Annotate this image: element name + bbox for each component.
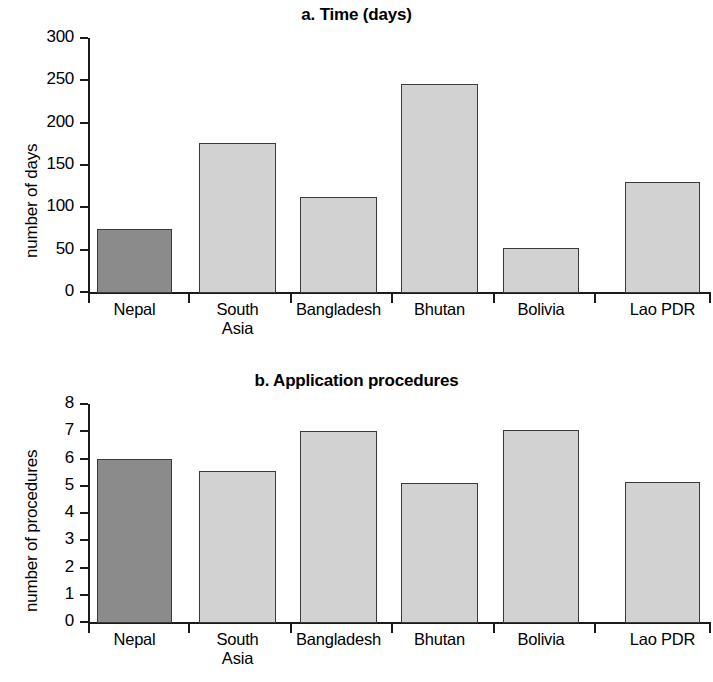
panel-a-y-axis-line xyxy=(88,38,90,294)
panel-a-y-tick-label: 150 xyxy=(6,154,74,174)
panel-b-y-tick xyxy=(80,539,88,541)
panel-b-y-tick-label: 8 xyxy=(6,393,74,413)
chart-panel-b: b. Application procedures number of proc… xyxy=(0,360,713,682)
panel-b-y-tick xyxy=(80,567,88,569)
bar-a-nepal xyxy=(97,229,172,294)
x-axis-label-lao-pdr: Lao PDR xyxy=(593,630,713,649)
bar-a-south-asia xyxy=(199,143,276,293)
bar-a-bolivia xyxy=(503,248,579,293)
panel-b-title: b. Application procedures xyxy=(0,371,713,391)
panel-a-y-tick xyxy=(80,291,88,293)
x-axis-label-lao-pdr: Lao PDR xyxy=(593,300,713,319)
panel-a-y-tick-label: 300 xyxy=(6,27,74,47)
panel-b-y-tick xyxy=(80,430,88,432)
panel-a-title: a. Time (days) xyxy=(0,5,713,25)
panel-b-y-tick-label: 1 xyxy=(6,584,74,604)
panel-a-y-tick xyxy=(80,37,88,39)
panel-a-y-tick xyxy=(80,164,88,166)
bar-b-bolivia xyxy=(503,430,579,623)
panel-b-y-tick-label: 6 xyxy=(6,448,74,468)
bar-b-nepal xyxy=(97,459,172,624)
bar-a-bangladesh xyxy=(300,197,377,293)
panel-b-y-tick xyxy=(80,621,88,623)
bar-b-south-asia xyxy=(199,471,276,623)
bar-b-bangladesh xyxy=(300,431,377,623)
panel-b-y-tick xyxy=(80,485,88,487)
bar-b-lao-pdr xyxy=(625,482,700,623)
panel-a-y-tick-label: 0 xyxy=(6,281,74,301)
x-axis-label-bolivia: Bolivia xyxy=(471,300,611,319)
panel-a-x-axis-line xyxy=(88,292,711,294)
panel-a-y-tick-label: 250 xyxy=(6,69,74,89)
panel-b-y-tick-label: 2 xyxy=(6,557,74,577)
panel-a-y-tick-label: 200 xyxy=(6,112,74,132)
panel-a-y-tick-label: 50 xyxy=(6,239,74,259)
panel-b-y-tick-label: 4 xyxy=(6,502,74,522)
chart-panel-a: a. Time (days) number of days 0501001502… xyxy=(0,0,713,360)
x-axis-label-bolivia: Bolivia xyxy=(471,630,611,649)
panel-b-y-tick xyxy=(80,594,88,596)
panel-b-y-tick-label: 5 xyxy=(6,475,74,495)
panel-b-y-tick xyxy=(80,403,88,405)
panel-b-x-axis-line xyxy=(88,622,711,624)
panel-a-y-tick xyxy=(80,122,88,124)
bar-b-bhutan xyxy=(401,483,478,623)
panel-b-y-tick xyxy=(80,512,88,514)
bar-a-bhutan xyxy=(401,84,478,293)
panel-b-y-tick xyxy=(80,458,88,460)
panel-b-y-tick-label: 7 xyxy=(6,420,74,440)
panel-b-y-tick-label: 3 xyxy=(6,529,74,549)
bar-a-lao-pdr xyxy=(625,182,700,293)
panel-a-y-tick xyxy=(80,79,88,81)
panel-a-y-tick-label: 100 xyxy=(6,196,74,216)
panel-a-y-tick xyxy=(80,206,88,208)
panel-b-y-axis-line xyxy=(88,404,90,624)
panel-b-y-tick-label: 0 xyxy=(6,611,74,631)
panel-a-y-tick xyxy=(80,249,88,251)
